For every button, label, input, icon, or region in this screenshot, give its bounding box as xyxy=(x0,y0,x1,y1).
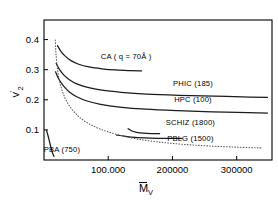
axes-frame xyxy=(44,20,272,160)
series-label-pblg-1500: PBLG (1500) xyxy=(167,134,214,143)
series-label-hpc-100: HPC (100) xyxy=(174,95,212,104)
series-label-schiz-1800: SCHIZ (1800) xyxy=(166,118,216,127)
y-tick-label: 0.1 xyxy=(26,124,39,135)
svg-text:MV: MV xyxy=(139,182,153,197)
curve-schiz-1800 xyxy=(128,129,159,134)
series-label-phic-185: PHIC (185) xyxy=(173,79,213,88)
curve-hpc-100 xyxy=(56,72,268,113)
y-tick-label: 0.3 xyxy=(26,64,39,75)
y-axis-title: v'2 xyxy=(8,86,25,97)
y-tick-label-group: 0.10.20.30.4 xyxy=(26,34,39,135)
series-annotation-group: CA ( q = 70Å )PHIC (185)HPC (100)SCHIZ (… xyxy=(44,52,216,154)
y-axis-ticks xyxy=(44,40,48,130)
figure-container: 100.000200000300000 0.10.20.30.4 CA ( q … xyxy=(0,0,278,202)
series-label-ca-q-70: CA ( q = 70Å ) xyxy=(101,52,152,61)
curve-phic-185 xyxy=(56,63,267,97)
x-tick-label: 300000 xyxy=(221,164,253,175)
x-axis-title: MV xyxy=(139,182,153,197)
x-axis-ticks xyxy=(108,156,236,160)
data-curves xyxy=(47,40,268,156)
x-tick-label: 200000 xyxy=(157,164,189,175)
svg-text:v'2: v'2 xyxy=(8,86,25,97)
y-tick-label: 0.2 xyxy=(26,94,39,105)
plot-frame xyxy=(44,20,272,160)
x-tick-label: 100.000 xyxy=(91,164,125,175)
series-label-pba-750: PBA (750) xyxy=(44,145,81,154)
chart-canvas: 100.000200000300000 0.10.20.30.4 CA ( q … xyxy=(0,0,278,202)
y-tick-label: 0.4 xyxy=(26,34,39,45)
x-tick-label-group: 100.000200000300000 xyxy=(91,164,252,175)
